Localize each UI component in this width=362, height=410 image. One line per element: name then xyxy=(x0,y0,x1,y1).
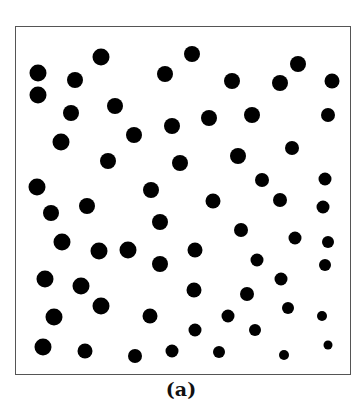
dot xyxy=(188,243,203,258)
dot xyxy=(289,232,302,245)
dot xyxy=(73,278,90,295)
dot xyxy=(249,324,261,336)
dot xyxy=(234,223,248,237)
dot xyxy=(63,105,79,121)
dot xyxy=(67,72,83,88)
dot xyxy=(164,118,180,134)
dot xyxy=(282,302,294,314)
dot xyxy=(325,74,340,89)
dot xyxy=(224,73,240,89)
dot xyxy=(172,155,188,171)
dot xyxy=(290,56,306,72)
dot xyxy=(120,242,137,259)
dot xyxy=(152,214,168,230)
dot xyxy=(187,283,202,298)
dot xyxy=(285,141,299,155)
dot xyxy=(143,182,159,198)
dot xyxy=(157,66,173,82)
dot xyxy=(37,271,54,288)
dot xyxy=(107,98,123,114)
figure-panel: (a) xyxy=(0,0,362,410)
dot xyxy=(275,273,288,286)
dot xyxy=(322,236,334,248)
dot xyxy=(43,205,59,221)
dot xyxy=(201,110,217,126)
dot xyxy=(30,87,47,104)
dot xyxy=(251,254,264,267)
dot xyxy=(279,350,289,360)
dot xyxy=(206,194,221,209)
dot xyxy=(126,127,142,143)
dot xyxy=(91,243,108,260)
dot xyxy=(54,234,71,251)
dot xyxy=(184,46,200,62)
dot xyxy=(93,298,110,315)
dot xyxy=(152,256,168,272)
dot xyxy=(321,108,335,122)
dot xyxy=(166,345,179,358)
dot xyxy=(128,349,142,363)
dot xyxy=(317,311,327,321)
dot xyxy=(244,107,260,123)
dot xyxy=(255,173,269,187)
dot xyxy=(319,173,332,186)
dot xyxy=(29,179,46,196)
dot xyxy=(189,324,202,337)
dot xyxy=(35,339,52,356)
dot xyxy=(230,148,246,164)
dot-field xyxy=(0,0,362,410)
dot xyxy=(319,259,331,271)
dot xyxy=(213,346,225,358)
dot xyxy=(317,201,330,214)
dot xyxy=(273,193,287,207)
dot xyxy=(324,341,333,350)
dot xyxy=(100,153,116,169)
dot xyxy=(143,309,158,324)
dot xyxy=(222,310,235,323)
dot xyxy=(53,134,70,151)
dot xyxy=(79,198,95,214)
dot xyxy=(240,287,254,301)
dot xyxy=(93,49,110,66)
dot xyxy=(30,65,47,82)
dot xyxy=(46,309,63,326)
dot xyxy=(78,344,93,359)
dot xyxy=(272,75,288,91)
figure-caption: (a) xyxy=(0,378,362,400)
